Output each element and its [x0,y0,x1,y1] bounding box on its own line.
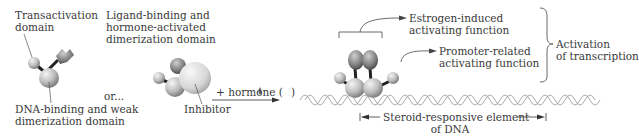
label-inhibitor: Inhibitor [184,103,231,115]
receptor-dimer [334,50,399,98]
label-steroid-element: Steroid-responsive element of DNA [383,111,517,135]
curly-brace [540,8,553,82]
label-or: or... [104,90,124,102]
label-estrogen-induced: Estrogen-induced activating function [409,12,509,36]
label-promoter-related: Promoter-related activating function [439,45,539,69]
label-ligand-binding: Ligand-binding and hormone-activated dim… [106,9,216,45]
receptor-monomer [24,34,74,103]
label-dna-binding: DNA-binding and weak dimerization domain [15,103,138,127]
label-plus-hormone: + hormone () [216,86,295,98]
label-transactivation: Transactivation domain [15,9,98,33]
receptor-with-inhibitor [153,58,211,104]
label-activation: Activation of transcription [556,38,639,62]
dna-helix [300,95,600,105]
